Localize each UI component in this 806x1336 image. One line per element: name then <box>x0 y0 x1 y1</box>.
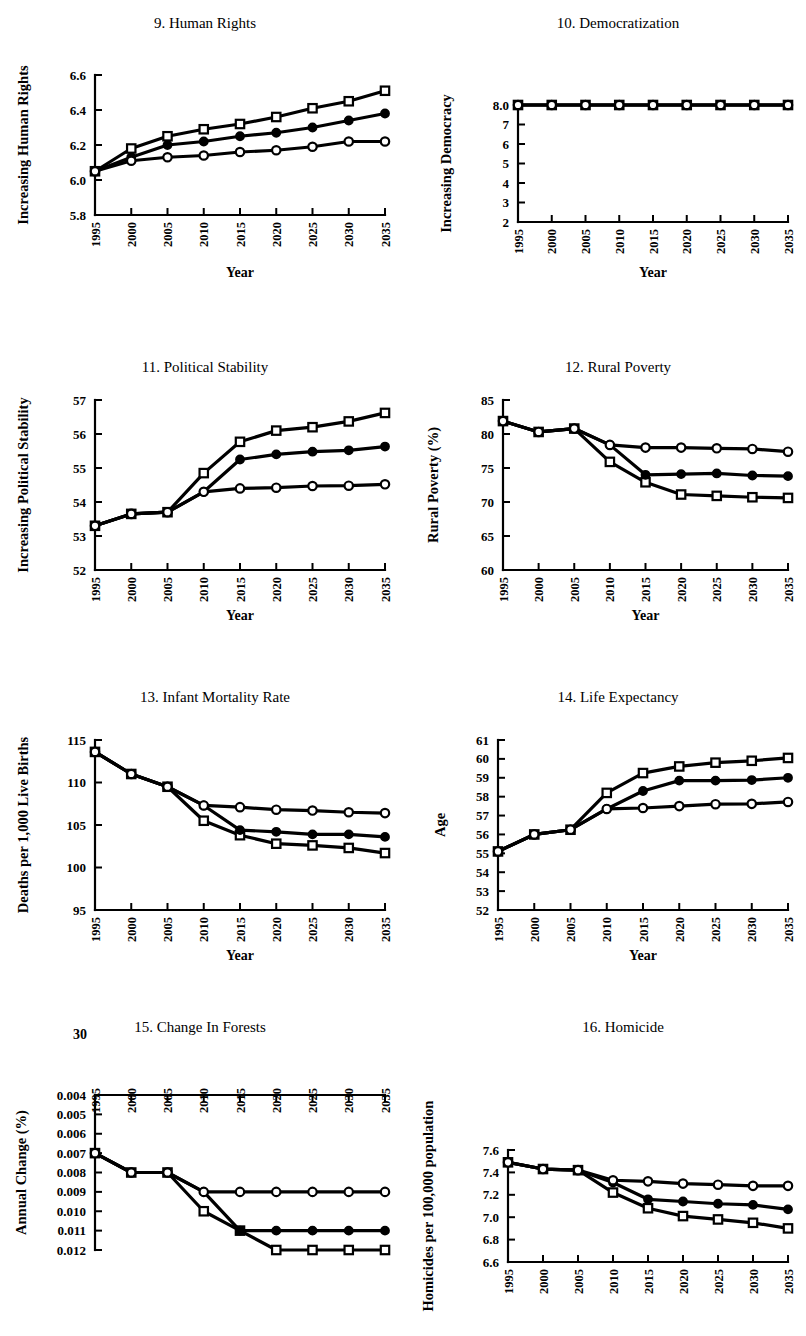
data-point-marker <box>649 101 657 109</box>
y-tick-label: 5.8 <box>70 208 87 223</box>
x-tick-label: 2010 <box>613 229 627 254</box>
series-line-scenario-low <box>95 1153 385 1192</box>
x-tick-label: 2035 <box>782 577 796 602</box>
x-tick-label: 2030 <box>342 917 356 942</box>
x-tick-label: 2030 <box>748 229 762 254</box>
data-point-marker <box>566 826 574 834</box>
data-point-marker <box>345 446 353 454</box>
data-point-marker <box>748 493 756 501</box>
data-point-marker <box>200 469 208 477</box>
y-tick-label: 0.011 <box>57 1223 86 1238</box>
data-point-marker <box>381 1246 389 1254</box>
data-point-marker <box>609 1176 617 1184</box>
data-point-marker <box>272 1246 280 1254</box>
y-tick-label: 7.6 <box>483 1143 500 1158</box>
chart-panel-10: 10. DemocratizationIncreasing Democracy2… <box>403 0 806 340</box>
data-point-marker <box>548 101 556 109</box>
data-point-marker <box>609 1188 617 1196</box>
x-tick-label: 2005 <box>564 917 578 942</box>
data-point-marker <box>272 450 280 458</box>
y-tick-label: 7.4 <box>483 1165 500 1180</box>
data-point-marker <box>345 1246 353 1254</box>
y-tick-label: 115 <box>67 733 86 748</box>
y-axis-label: Increasing Political Stability <box>15 397 31 573</box>
data-point-marker <box>784 774 792 782</box>
data-point-marker <box>679 1212 687 1220</box>
data-point-marker <box>200 1207 208 1215</box>
x-tick-label: 2015 <box>234 917 248 942</box>
data-point-marker <box>641 471 649 479</box>
data-point-marker <box>574 1166 582 1174</box>
data-point-marker <box>530 830 538 838</box>
data-point-marker <box>381 137 389 145</box>
x-tick-label: 2015 <box>234 577 248 602</box>
x-tick-label: 2025 <box>710 577 724 602</box>
x-tick-label: 1995 <box>89 577 103 602</box>
data-point-marker <box>308 1227 316 1235</box>
data-point-marker <box>677 470 685 478</box>
y-tick-label: 3 <box>503 195 510 210</box>
data-point-marker <box>308 448 316 456</box>
data-point-marker <box>236 803 244 811</box>
x-tick-label: 2030 <box>746 577 760 602</box>
data-point-marker <box>499 417 507 425</box>
x-tick-label: 1995 <box>497 577 511 602</box>
data-point-marker <box>345 116 353 124</box>
x-axis-label: Year <box>632 608 660 623</box>
x-tick-label: 2030 <box>342 1088 356 1113</box>
y-tick-label: 2 <box>503 215 510 230</box>
x-tick-label: 2035 <box>782 917 796 942</box>
data-point-marker <box>711 758 719 766</box>
chart-title: 13. Infant Mortality Rate <box>140 689 290 705</box>
data-point-marker <box>683 101 691 109</box>
y-tick-label: 100 <box>67 860 87 875</box>
panel-13-svg: 13. Infant Mortality RateDeaths per 1,00… <box>0 670 403 1000</box>
data-point-marker <box>236 1188 244 1196</box>
x-tick-label: 2025 <box>306 222 320 247</box>
data-point-marker <box>91 1149 99 1157</box>
data-point-marker <box>308 1246 316 1254</box>
data-point-marker <box>308 423 316 431</box>
x-axis-label: Year <box>226 948 254 963</box>
y-tick-label: 75 <box>481 461 495 476</box>
data-point-marker <box>749 1182 757 1190</box>
data-point-marker <box>748 800 756 808</box>
x-tick-label: 2010 <box>603 577 617 602</box>
x-tick-label: 2025 <box>714 229 728 254</box>
data-point-marker <box>570 424 578 432</box>
data-point-marker <box>236 484 244 492</box>
chart-title: 9. Human Rights <box>154 15 256 31</box>
x-tick-label: 2005 <box>161 1088 175 1113</box>
data-point-marker <box>539 1165 547 1173</box>
y-tick-label: 7.2 <box>483 1187 499 1202</box>
data-point-marker <box>675 777 683 785</box>
x-tick-label: 2000 <box>528 917 542 942</box>
data-point-marker <box>677 443 685 451</box>
data-point-marker <box>716 101 724 109</box>
data-point-marker <box>345 1188 353 1196</box>
chart-grid: 9. Human RightsIncreasing Human Rights5.… <box>0 0 806 1336</box>
x-tick-label: 1995 <box>89 1088 103 1113</box>
x-tick-label: 2020 <box>270 222 284 247</box>
data-point-marker <box>581 101 589 109</box>
chart-panel-11: 11. Political StabilityIncreasing Politi… <box>0 340 403 670</box>
data-point-marker <box>748 757 756 765</box>
data-point-marker <box>679 1179 687 1187</box>
data-point-marker <box>713 469 721 477</box>
data-point-marker <box>200 137 208 145</box>
data-point-marker <box>713 492 721 500</box>
x-tick-label: 2015 <box>642 1269 656 1294</box>
data-point-marker <box>91 748 99 756</box>
x-tick-label: 2000 <box>125 917 139 942</box>
data-point-marker <box>127 144 135 152</box>
data-point-marker <box>711 777 719 785</box>
x-tick-label: 2005 <box>161 917 175 942</box>
data-point-marker <box>200 151 208 159</box>
data-point-marker <box>606 458 614 466</box>
y-tick-label: 0.009 <box>57 1184 87 1199</box>
x-tick-label: 1995 <box>512 229 526 254</box>
data-point-marker <box>236 455 244 463</box>
y-tick-label: 4 <box>503 176 510 191</box>
data-point-marker <box>639 769 647 777</box>
panel-16-svg: 16. HomicideHomicides per 100,000 popula… <box>403 1000 806 1336</box>
